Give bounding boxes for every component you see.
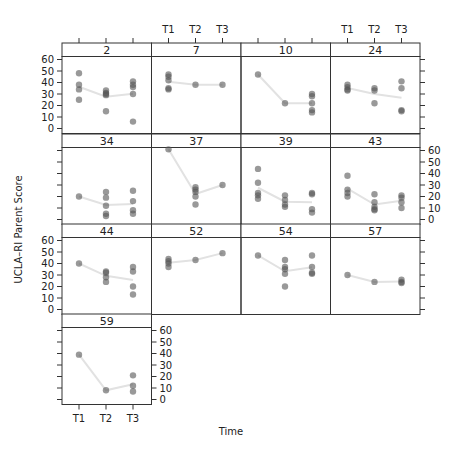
data-point: [76, 86, 82, 92]
data-point: [103, 194, 109, 200]
y-axis-left-row1: [57, 151, 62, 220]
panel-strip-label: 44: [100, 225, 114, 238]
y-tick-label: 60: [41, 235, 54, 246]
data-point: [192, 82, 198, 88]
data-point: [371, 87, 377, 93]
data-point: [103, 279, 109, 285]
data-point: [309, 264, 315, 270]
data-point: [130, 388, 136, 394]
y-tick-label: 60: [160, 325, 173, 336]
x-axis-top-col1: T1T2T3: [161, 24, 228, 43]
data-point: [309, 93, 315, 99]
y-tick-label: 10: [41, 112, 54, 123]
panel-strip-label: 24: [368, 44, 382, 57]
data-point: [344, 87, 350, 93]
panel-39: 39: [241, 134, 331, 225]
data-point: [282, 257, 288, 263]
x-tick-label: T1: [72, 413, 85, 424]
y-tick-label: 0: [160, 394, 166, 405]
y-tick-label: 0: [48, 304, 54, 315]
data-point: [255, 252, 261, 258]
y-tick-label: 50: [41, 247, 54, 258]
data-point: [309, 109, 315, 115]
panel-57: 57: [331, 224, 421, 315]
data-point: [255, 180, 261, 186]
panel-37: 37: [152, 134, 242, 225]
data-point: [398, 280, 404, 286]
panel-strip-label: 59: [100, 315, 114, 328]
panel-54: 54: [241, 224, 331, 315]
data-point: [282, 271, 288, 277]
panel-strip-label: 39: [279, 135, 293, 148]
data-point: [130, 383, 136, 389]
data-point: [371, 191, 377, 197]
panel-24: 24: [331, 43, 421, 134]
panel-frame: [241, 148, 331, 225]
y-tick-label: 60: [428, 145, 441, 156]
data-point: [130, 268, 136, 274]
data-point: [103, 92, 109, 98]
panel-2: 2: [62, 43, 152, 134]
data-point: [130, 118, 136, 124]
y-tick-label: 60: [41, 54, 54, 65]
trellis-chart: 2710243437394344525457590102030405060010…: [0, 0, 462, 462]
data-point: [165, 146, 171, 152]
data-point: [371, 100, 377, 106]
data-point: [130, 198, 136, 204]
data-point: [165, 86, 171, 92]
data-point: [76, 70, 82, 76]
data-point: [192, 193, 198, 199]
panel-frame: [241, 57, 331, 134]
y-tick-label: 40: [41, 258, 54, 269]
y-tick-label: 30: [160, 360, 173, 371]
y-tick-label: 20: [41, 100, 54, 111]
data-point: [103, 387, 109, 393]
data-point: [344, 193, 350, 199]
x-axis-top-col3: T1T2T3: [340, 24, 407, 43]
y-axis-left-row0: 0102030405060: [41, 54, 62, 134]
data-point: [130, 91, 136, 97]
data-point: [76, 260, 82, 266]
y-tick-label: 30: [41, 89, 54, 100]
panel-strip-label: 7: [193, 44, 200, 57]
y-axis-left-row3: [57, 331, 62, 400]
data-point: [255, 166, 261, 172]
data-point: [103, 189, 109, 195]
x-axis-bottom-col0: T1T2T3: [72, 405, 139, 424]
panel-59: 59: [62, 314, 152, 405]
y-tick-label: 30: [428, 180, 441, 191]
panel-frame: [331, 238, 421, 315]
y-axis-right-row1: 0102030405060: [420, 145, 441, 225]
panel-34: 34: [62, 134, 152, 225]
data-point: [398, 78, 404, 84]
y-tick-label: 30: [41, 270, 54, 281]
x-tick-label: T2: [99, 413, 112, 424]
panel-7: 7: [152, 43, 242, 134]
data-point: [282, 100, 288, 106]
panel-strip-label: 37: [189, 135, 203, 148]
data-point: [219, 182, 225, 188]
data-point: [76, 97, 82, 103]
data-point: [309, 271, 315, 277]
panel-strip-label: 52: [189, 225, 203, 238]
data-point: [398, 85, 404, 91]
x-axis-top-col0: [79, 38, 133, 43]
data-point: [309, 209, 315, 215]
data-point: [130, 188, 136, 194]
panel-strip-label: 57: [368, 225, 382, 238]
x-tick-label: T1: [161, 24, 174, 35]
panel-43: 43: [331, 134, 421, 225]
panel-strip-label: 10: [279, 44, 293, 57]
panel-10: 10: [241, 43, 331, 134]
data-point: [398, 108, 404, 114]
trend-line: [258, 74, 312, 103]
x-axis-top-col2: [258, 38, 312, 43]
y-tick-label: 50: [160, 337, 173, 348]
y-tick-label: 20: [41, 281, 54, 292]
panel-frame: [152, 238, 242, 315]
data-point: [103, 213, 109, 219]
y-tick-label: 50: [428, 157, 441, 168]
data-point: [130, 372, 136, 378]
data-point: [282, 204, 288, 210]
data-point: [130, 211, 136, 217]
